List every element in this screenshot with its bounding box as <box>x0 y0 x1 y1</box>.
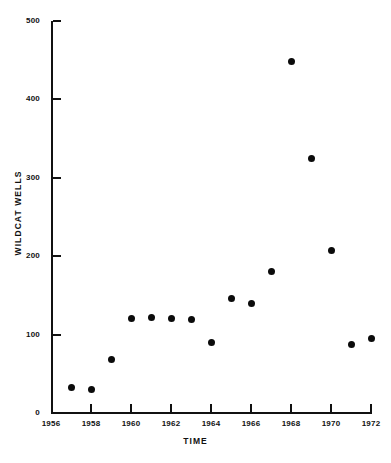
data-point <box>288 58 295 65</box>
x-axis-tick-label: 1972 <box>351 419 391 428</box>
x-axis-tick <box>90 404 92 412</box>
x-axis-tick-label: 1964 <box>191 419 231 428</box>
y-axis-tick-label: 500 <box>6 17 40 25</box>
x-axis-tick <box>290 404 292 412</box>
y-axis-line <box>51 21 53 414</box>
y-axis-title: WILDCAT WELLS <box>13 153 23 273</box>
x-axis-line <box>51 412 372 414</box>
x-axis-tick-label: 1956 <box>31 419 71 428</box>
x-axis-tick <box>130 404 132 412</box>
data-point <box>188 316 195 323</box>
y-axis-tick <box>53 20 61 22</box>
x-axis-tick <box>330 404 332 412</box>
x-axis-tick <box>370 404 372 412</box>
data-point <box>268 268 275 275</box>
x-axis-tick-label: 1970 <box>311 419 351 428</box>
x-axis-title: TIME <box>0 436 391 446</box>
x-axis-tick-label: 1958 <box>71 419 111 428</box>
data-point <box>208 339 215 346</box>
y-axis-tick-label: 100 <box>6 331 40 339</box>
data-point <box>148 314 155 321</box>
data-point <box>248 300 255 307</box>
data-point <box>368 335 375 342</box>
x-axis-tick-label: 1968 <box>271 419 311 428</box>
y-axis-tick <box>53 177 61 179</box>
x-axis-tick <box>170 404 172 412</box>
data-point <box>328 247 335 254</box>
y-axis-tick-label: 0 <box>6 409 40 417</box>
wildcat-wells-scatter-chart: 0100200300400500 19561958196019621964196… <box>0 0 391 463</box>
y-axis-tick-label: 300 <box>6 174 40 182</box>
y-axis-tick <box>53 334 61 336</box>
y-axis-tick <box>53 255 61 257</box>
plot-area <box>51 21 371 413</box>
y-axis-tick <box>53 98 61 100</box>
data-point <box>168 315 175 322</box>
x-axis-tick-label: 1966 <box>231 419 271 428</box>
x-axis-tick-label: 1962 <box>151 419 191 428</box>
data-point <box>348 341 355 348</box>
data-point <box>108 356 115 363</box>
x-axis-tick <box>210 404 212 412</box>
data-point <box>88 386 95 393</box>
x-axis-tick <box>250 404 252 412</box>
y-axis-tick-label: 400 <box>6 95 40 103</box>
data-point <box>228 295 235 302</box>
data-point <box>128 315 135 322</box>
x-axis-tick-label: 1960 <box>111 419 151 428</box>
y-axis-tick-label: 200 <box>6 252 40 260</box>
data-point <box>68 384 75 391</box>
